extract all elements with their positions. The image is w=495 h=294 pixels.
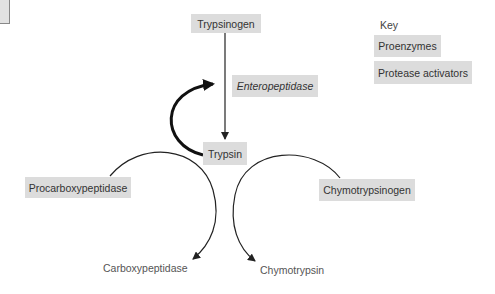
node-chymotrypsin: Chymotrypsin: [260, 264, 324, 276]
key-title: Key: [380, 19, 398, 31]
node-trypsinogen: Trypsinogen: [191, 14, 261, 33]
label-enteropeptidase: Enteropeptidase: [232, 75, 318, 97]
node-trypsin: Trypsin: [203, 142, 247, 165]
node-chymotrypsinogen: Chymotrypsinogen: [319, 179, 415, 201]
key-item-protease-activators: Protease activators: [374, 61, 472, 84]
arc-arrow-chymotrypsinogen: [233, 155, 340, 261]
node-procarboxypeptidase: Procarboxypeptidase: [25, 177, 131, 198]
node-carboxypeptidase: Carboxypeptidase: [103, 262, 188, 274]
key-item-proenzymes: Proenzymes: [374, 35, 441, 57]
arc-arrow-procarboxypeptidase: [110, 152, 216, 259]
